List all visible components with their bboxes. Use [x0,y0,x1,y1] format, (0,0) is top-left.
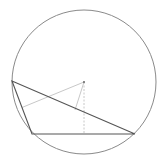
perpendicular-to-ab [22,82,84,108]
center-point-o [83,81,85,83]
geometry-diagram [0,0,163,168]
inscribed-triangle [12,81,135,134]
perpendicular-to-ac [75,82,84,110]
